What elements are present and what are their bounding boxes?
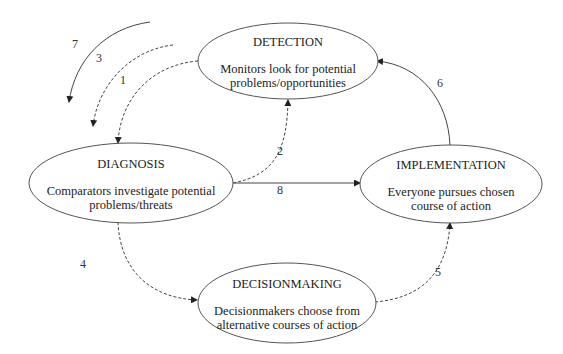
edge-label-1: 1 xyxy=(120,73,126,87)
detection-desc-line-2: problems/opportunities xyxy=(230,76,346,90)
edge-label-7: 7 xyxy=(72,37,78,51)
edge-5 xyxy=(375,223,450,302)
edge-4 xyxy=(118,222,197,300)
implementation-title: IMPLEMENTATION xyxy=(396,158,505,172)
edge-label-4: 4 xyxy=(80,257,86,271)
edge-label-6: 6 xyxy=(437,76,443,90)
detection-desc-line-1: Monitors look for potential xyxy=(220,62,356,76)
implementation-desc-line-2: course of action xyxy=(411,199,492,213)
diagnosis-desc-line-2: problems/threats xyxy=(89,198,172,212)
decision-cycle-diagram: 1 2 3 4 5 6 7 8 DETECTION Monitors look … xyxy=(0,0,563,354)
edge-label-2: 2 xyxy=(277,144,283,158)
edge-6 xyxy=(377,61,450,145)
node-decisionmaking: DECISIONMAKING Decisionmakers choose fro… xyxy=(198,263,376,343)
edge-label-5: 5 xyxy=(435,265,441,279)
node-diagnosis: DIAGNOSIS Comparators investigate potent… xyxy=(29,143,233,223)
implementation-desc-line-1: Everyone pursues chosen xyxy=(387,185,515,199)
edge-3 xyxy=(93,45,173,126)
edge-label-3: 3 xyxy=(96,51,102,65)
diagnosis-desc-line-1: Comparators investigate potential xyxy=(47,184,216,198)
edge-label-8: 8 xyxy=(277,183,283,197)
node-implementation: IMPLEMENTATION Everyone pursues chosen c… xyxy=(360,145,542,223)
edge-2 xyxy=(233,100,288,183)
edge-7 xyxy=(69,22,150,102)
node-detection: DETECTION Monitors look for potential pr… xyxy=(198,23,378,99)
decisionmaking-title: DECISIONMAKING xyxy=(232,277,342,291)
detection-title: DETECTION xyxy=(253,35,323,49)
decisionmaking-desc-line-2: alternative courses of action xyxy=(217,318,358,332)
decisionmaking-desc-line-1: Decisionmakers choose from xyxy=(214,304,360,318)
edge-1 xyxy=(118,61,198,143)
diagnosis-title: DIAGNOSIS xyxy=(97,157,164,171)
